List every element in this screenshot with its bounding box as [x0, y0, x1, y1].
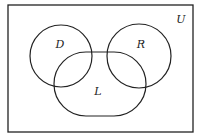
venn-diagram: U D R L — [0, 0, 200, 138]
set-l-label: L — [93, 85, 101, 98]
universe-label: U — [176, 13, 186, 26]
universe-rect — [8, 5, 193, 132]
set-r-label: R — [136, 38, 145, 51]
set-d-circle — [30, 25, 92, 87]
set-r-circle — [107, 24, 171, 88]
set-d-label: D — [55, 38, 65, 51]
set-l-shape — [54, 52, 146, 116]
